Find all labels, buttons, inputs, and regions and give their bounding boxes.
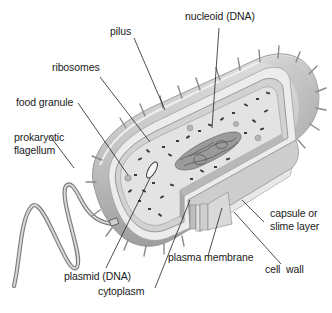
label-ribosomes: ribosomes xyxy=(52,61,100,74)
label-cell-wall: cell wall xyxy=(265,263,304,276)
label-food-granule: food granule xyxy=(16,96,73,109)
label-pilus: pilus xyxy=(110,25,131,38)
label-nucleoid: nucleoid (DNA) xyxy=(185,10,255,23)
label-capsule: capsule or slime layer xyxy=(270,207,319,232)
label-plasma-membrane: plasma membrane xyxy=(168,251,253,264)
label-flagellum: prokaryotic flagellum xyxy=(14,131,64,156)
label-cytoplasm: cytoplasm xyxy=(98,285,144,298)
label-plasmid: plasmid (DNA) xyxy=(64,270,131,283)
